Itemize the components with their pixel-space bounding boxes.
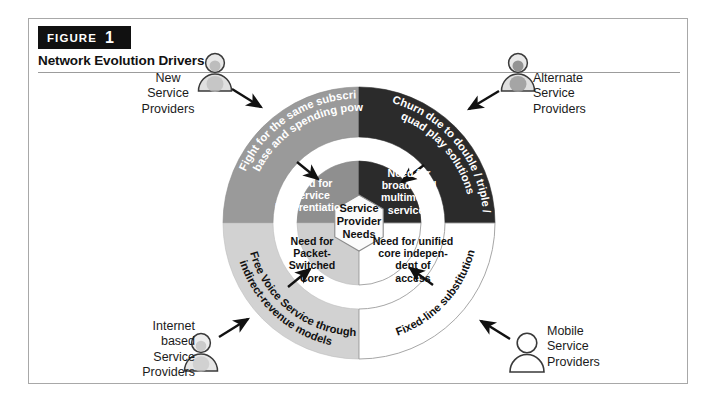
arrow-internet-based-service-providers bbox=[219, 319, 248, 337]
actor-label-internet-based-service-providers: InternetbasedServiceProviders bbox=[115, 319, 195, 380]
center-hexagon-label: ServiceProviderNeeds bbox=[317, 202, 401, 242]
arrow-alternate-service-providers bbox=[469, 91, 499, 109]
actor-label-mobile-service-providers: MobileServiceProviders bbox=[547, 324, 627, 370]
figure-frame: FIGURE 1 Network Evolution Drivers bbox=[28, 18, 688, 384]
arrow-mobile-service-providers bbox=[481, 321, 510, 339]
network-evolution-drivers-diagram: Fight for the same subscriber base and s… bbox=[29, 19, 689, 385]
actor-label-new-service-providers: NewServiceProviders bbox=[133, 71, 203, 117]
arrow-new-service-providers bbox=[232, 89, 261, 107]
actor-label-alternate-service-providers: AlternateServiceProviders bbox=[533, 71, 615, 117]
inner-label-need-packet-switched-core: Need forPacket-SwitchedCore bbox=[267, 235, 357, 284]
person-icon-new-service-providers bbox=[199, 54, 232, 92]
inner-label-need-unified-core: Need for unifiedcore indepen-dent ofacce… bbox=[363, 235, 463, 284]
person-icon-mobile-service-providers bbox=[510, 333, 544, 372]
person-icon-alternate-service-providers bbox=[502, 54, 535, 92]
